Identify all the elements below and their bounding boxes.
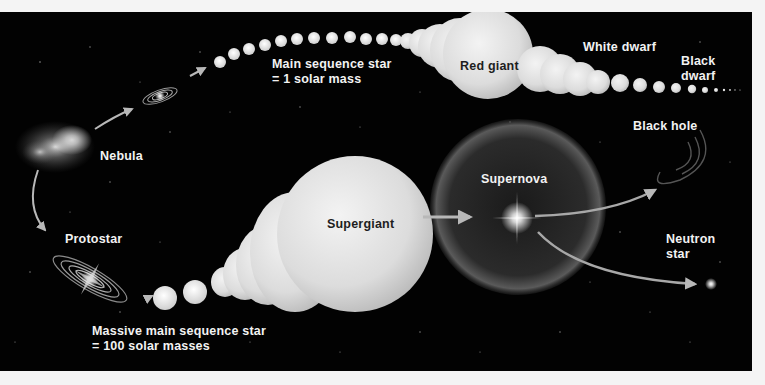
- label-main-sequence-star: Main sequence star = 1 solar mass: [272, 57, 392, 87]
- label-supergiant: Supergiant: [327, 217, 394, 232]
- label-black-hole: Black hole: [633, 119, 698, 134]
- label-protostar: Protostar: [65, 232, 122, 247]
- protostar-graphic: [45, 242, 136, 315]
- label-massive-main-sequence-star: Massive main sequence star = 100 solar m…: [92, 324, 266, 354]
- neutron-star-graphic: [705, 278, 717, 290]
- nebula-graphic: [15, 121, 95, 173]
- arrow-nebula-to-protostar-small: [95, 109, 132, 129]
- stellar-evolution-diagram: Nebula Protostar Main sequence star = 1 …: [0, 12, 752, 371]
- red-giant-graphic: [400, 12, 533, 99]
- label-red-giant: Red giant: [460, 59, 519, 74]
- small-protostar-graphic: [141, 84, 179, 108]
- arrow-nebula-to-protostar: [33, 170, 45, 230]
- label-neutron-star: Neutron star: [666, 232, 715, 262]
- black-hole-graphic: [658, 130, 706, 184]
- arrow-to-main-sequence: [190, 68, 205, 76]
- massive-main-sequence-track: [153, 280, 207, 310]
- arrow-to-massive-main-sequence: [146, 296, 152, 299]
- label-black-dwarf: Black dwarf: [681, 54, 715, 84]
- label-white-dwarf: White dwarf: [583, 40, 656, 55]
- label-nebula: Nebula: [100, 149, 143, 164]
- supergiant-graphic: [211, 156, 433, 312]
- label-supernova: Supernova: [481, 172, 547, 187]
